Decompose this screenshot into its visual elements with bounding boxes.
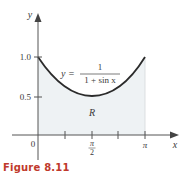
y-tick-label: 1.0 — [20, 52, 32, 62]
x-axis-label: x — [172, 139, 178, 150]
region-label: R — [88, 107, 95, 118]
y-axis-label: y — [27, 9, 33, 20]
x-tick-label-pi-over-2-num: π — [90, 139, 95, 148]
function-label-denominator: 1 + sin x — [84, 75, 116, 85]
x-tick-label-origin: 0 — [31, 139, 36, 149]
y-axis-arrow-icon — [35, 13, 42, 22]
figure-caption: Figure 8.11 — [3, 162, 70, 173]
figure-plot: 1.0 0.5 0 π 2 π x y y = 1 1 + sin x R — [0, 0, 191, 177]
x-axis-arrow-icon — [170, 132, 179, 139]
x-tick-label-pi: π — [143, 140, 148, 150]
x-tick-label-pi-over-2-den: 2 — [90, 148, 94, 157]
y-tick-label: 0.5 — [20, 92, 32, 102]
function-label-numerator: 1 — [98, 62, 103, 72]
function-label-lhs: y = — [60, 68, 75, 79]
